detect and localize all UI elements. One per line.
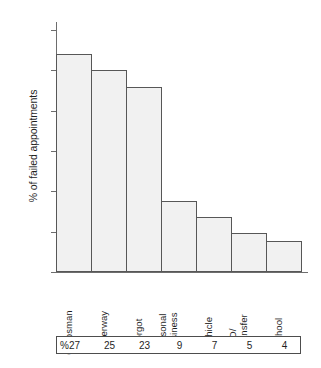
value-cell: 7 bbox=[197, 340, 232, 352]
value-cell: 5 bbox=[232, 340, 267, 352]
bar bbox=[231, 233, 267, 272]
bar-chart: % of failed appointments 051015202530 Co… bbox=[0, 0, 321, 368]
value-cell: 27 bbox=[57, 340, 92, 352]
plot-area: 051015202530 bbox=[56, 22, 308, 272]
x-axis-category-labels: CorpsmanUnderwayForgotPersonal BusinessV… bbox=[56, 274, 308, 332]
bar bbox=[196, 217, 232, 272]
value-table: % 2725239754 bbox=[56, 336, 301, 354]
category-label: Personal Business bbox=[161, 274, 196, 332]
value-cell: 9 bbox=[162, 340, 197, 352]
value-cell: 23 bbox=[127, 340, 162, 352]
category-label: Corpsman bbox=[56, 274, 91, 332]
x-axis-line bbox=[56, 272, 308, 273]
y-axis-title: % of failed appointments bbox=[27, 51, 39, 241]
bar bbox=[56, 54, 92, 272]
category-label: Forgot bbox=[126, 274, 161, 332]
y-tick-0 bbox=[51, 272, 56, 273]
value-cell: 25 bbox=[92, 340, 127, 352]
value-cell: 4 bbox=[267, 340, 302, 352]
category-label: Underway bbox=[91, 274, 126, 332]
bar-series bbox=[56, 22, 301, 272]
category-label: School bbox=[266, 274, 301, 332]
bar bbox=[266, 241, 302, 272]
bar bbox=[91, 70, 127, 272]
bar bbox=[161, 201, 197, 272]
category-label: Vehicle bbox=[196, 274, 231, 332]
bar bbox=[126, 87, 162, 272]
category-label: TAD/ Transfer bbox=[231, 274, 266, 332]
